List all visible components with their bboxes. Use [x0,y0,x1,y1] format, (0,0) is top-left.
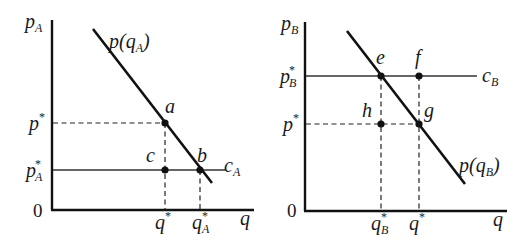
two-market-diagram: a c b pA q 0 p(qA) cA p* p*A q* q*A [0,0,530,248]
y-tick-pb-star: p*B [278,63,297,90]
cost-label-a: cA [224,154,241,179]
point-h-label: h [362,99,372,121]
y-axis-label-a: pA [23,10,43,35]
panel-a: a c b pA q 0 p(qA) cA p* p*A q* q*A [23,10,254,236]
point-f [415,72,422,79]
cost-label-b: cB [482,64,499,89]
origin-label-a: 0 [33,200,43,221]
y-axis-label-b: pB [279,12,299,37]
point-e [377,72,384,79]
point-c-label: c [146,144,155,166]
x-tick-q-star-a: q* [155,209,171,234]
point-e-label: e [376,46,385,68]
origin-label-b: 0 [287,200,297,221]
x-tick-q-star-b: q* [409,210,425,235]
point-b [196,166,203,173]
panel-b: e f h g pB q 0 p(qB) cB p*B p* q*B q* [278,12,507,237]
y-tick-pa-star: p*A [24,157,43,184]
point-h [377,120,384,127]
x-tick-qa-star: q*A [192,209,210,236]
demand-label-b: p(qB) [457,154,500,179]
y-tick-p-star-a: p* [27,110,45,135]
point-b-label: b [197,144,207,166]
y-tick-p-star-b: p* [281,111,299,136]
point-c [161,166,168,173]
point-a-label: a [165,95,175,117]
point-g [415,120,422,127]
point-g-label: g [424,99,434,122]
point-a [161,119,168,126]
x-tick-qb-star: q*B [371,210,389,237]
point-f-label: f [415,46,423,69]
x-axis-label-a: q [240,207,250,230]
x-axis-label-b: q [493,208,503,231]
demand-label-a: p(qA) [107,30,150,55]
